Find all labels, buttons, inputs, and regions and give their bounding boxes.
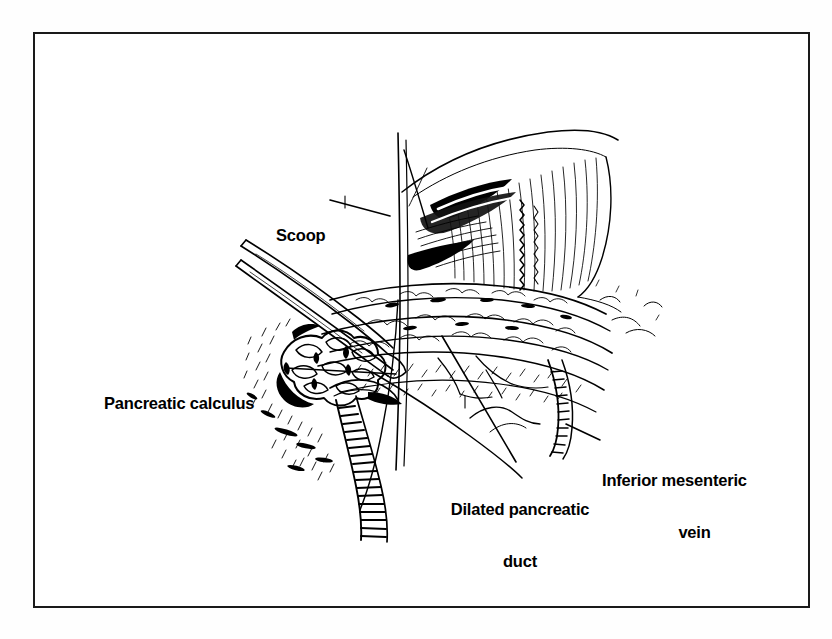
label-dilated-pancreatic-duct-line-1: Dilated pancreatic <box>431 501 609 518</box>
dilated-pancreatic-duct <box>330 380 402 542</box>
label-dilated-pancreatic-duct: Dilated pancreatic duct <box>431 466 609 605</box>
label-scoop: Scoop <box>276 192 325 279</box>
label-scoop-line-1: Scoop <box>276 227 325 244</box>
label-inferior-mesenteric-vein-line-2: vein <box>602 524 787 541</box>
label-inferior-mesenteric-vein: Inferior mesenteric vein <box>602 437 787 576</box>
label-inferior-mesenteric-vein-line-1: Inferior mesenteric <box>602 472 787 489</box>
inferior-mesenteric-vein <box>548 360 573 459</box>
label-pancreatic-calculus-line-1: Pancreatic calculus <box>104 395 254 412</box>
label-pancreatic-calculus: Pancreatic calculus <box>104 360 254 447</box>
leader-scoop <box>330 200 390 216</box>
label-dilated-pancreatic-duct-line-2: duct <box>431 553 609 570</box>
figure-page: Scoop Pancreatic calculus Dilated pancre… <box>0 0 832 639</box>
leader-pancreatic-calculus <box>286 368 396 374</box>
